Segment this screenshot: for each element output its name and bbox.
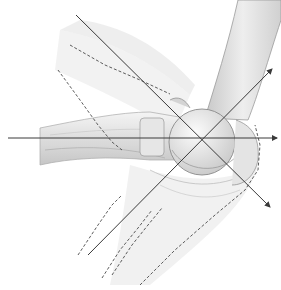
humerus-bone <box>205 0 281 120</box>
elbow-illustration <box>0 0 281 290</box>
lower-dashed-contour-1 <box>78 195 122 255</box>
